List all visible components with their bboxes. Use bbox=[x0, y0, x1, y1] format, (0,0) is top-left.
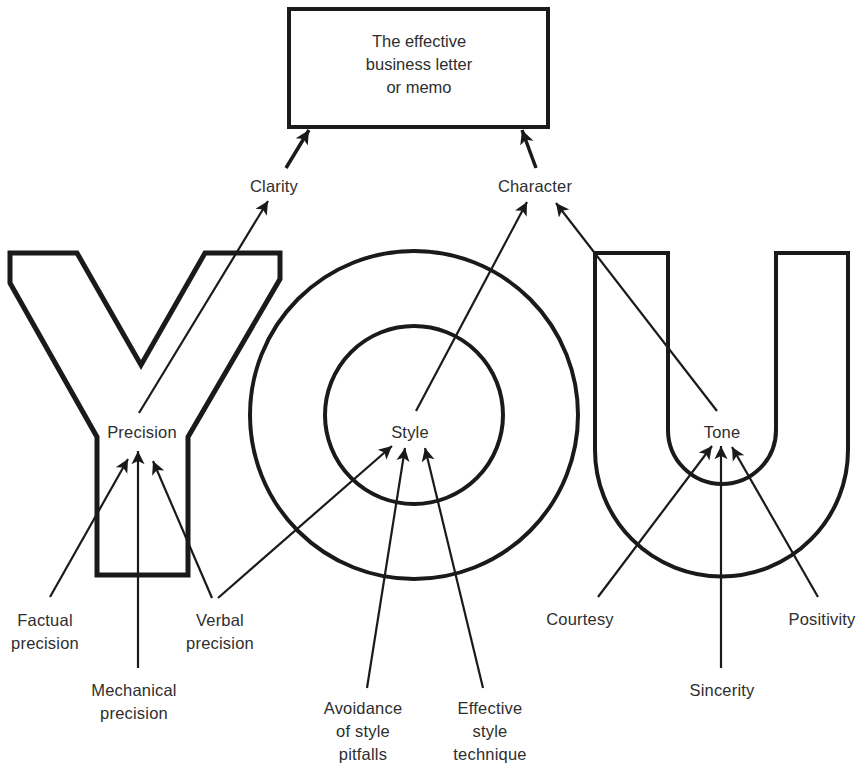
label-positivity: Positivity bbox=[788, 608, 855, 631]
label-mechanical-precision: Mechanical precision bbox=[91, 679, 176, 725]
arrow-clarity-to-box bbox=[286, 130, 309, 168]
letter-o-outer-ring bbox=[250, 251, 578, 579]
diagram-canvas bbox=[0, 0, 866, 766]
arrow-avoidance-to-style bbox=[367, 448, 405, 688]
title-box-text: The effective business letter or memo bbox=[288, 30, 550, 99]
arrow-character-to-box bbox=[522, 130, 536, 168]
label-precision: Precision bbox=[107, 421, 177, 444]
label-courtesy: Courtesy bbox=[546, 608, 614, 631]
label-character: Character bbox=[498, 175, 572, 198]
label-effective-style-technique: Effective style technique bbox=[453, 697, 526, 766]
letter-y-outline bbox=[10, 253, 280, 575]
label-factual-precision: Factual precision bbox=[11, 609, 79, 655]
label-avoidance-of-style-pitfalls: Avoidance of style pitfalls bbox=[324, 697, 403, 766]
arrow-tone-to-character bbox=[556, 203, 717, 411]
arrow-precision-to-clarity bbox=[139, 201, 268, 413]
label-verbal-precision: Verbal precision bbox=[186, 609, 254, 655]
letter-o-inner-ring bbox=[325, 326, 503, 504]
label-tone: Tone bbox=[704, 421, 741, 444]
label-sincerity: Sincerity bbox=[689, 679, 754, 702]
label-clarity: Clarity bbox=[250, 175, 298, 198]
arrow-style-to-character bbox=[416, 202, 527, 411]
label-style: Style bbox=[391, 421, 429, 444]
arrow-verbal-to-style bbox=[218, 446, 392, 598]
